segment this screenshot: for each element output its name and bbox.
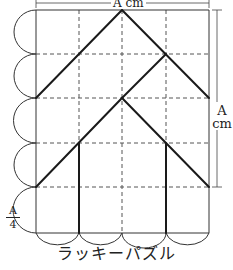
right-dimension-label: A cm [211,104,233,130]
top-dimension-label: A cm [111,0,146,9]
diagram-title: ラッキーパズル [0,246,233,262]
left-scallops [13,10,36,233]
fraction-denominator: 4 [6,218,20,230]
fraction-numerator: A [6,205,20,218]
right-dimension-unit: cm [211,117,233,130]
cell-size-fraction: A 4 [6,205,20,230]
dashed-grid [36,10,209,233]
right-dimension-line [212,10,222,187]
puzzle-diagram [0,0,233,270]
